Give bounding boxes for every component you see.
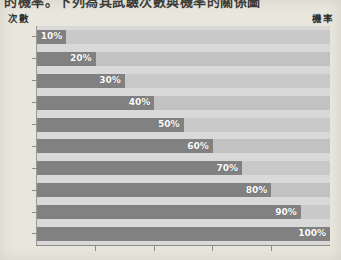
x-axis-line bbox=[36, 245, 330, 246]
bar-track: 10% bbox=[37, 30, 330, 44]
bar-fill: 60% bbox=[37, 139, 213, 153]
x-axis-tick bbox=[212, 245, 213, 251]
bar-value-label: 40% bbox=[129, 98, 155, 107]
bar-row: 20次20% bbox=[37, 48, 330, 70]
bar-row: 50次50% bbox=[37, 114, 330, 136]
bar-value-label: 90% bbox=[275, 208, 301, 217]
bar-chart: 的機率。下列為其試驗次數與機率的關係圖 次數 機率 10次10%20次20%30… bbox=[0, 0, 341, 260]
bar-track: 80% bbox=[37, 183, 330, 197]
bar-row: 10次10% bbox=[37, 26, 330, 48]
bar-track: 60% bbox=[37, 139, 330, 153]
bar-value-label: 30% bbox=[99, 76, 125, 85]
bar-value-label: 60% bbox=[187, 142, 213, 151]
bar-track: 20% bbox=[37, 52, 330, 66]
bar-fill: 80% bbox=[37, 183, 271, 197]
bar-track: 30% bbox=[37, 74, 330, 88]
bar-value-label: 80% bbox=[246, 186, 272, 195]
bar-track: 100% bbox=[37, 227, 330, 241]
bar-value-label: 10% bbox=[41, 32, 67, 41]
y-axis-title: 次數 bbox=[8, 11, 29, 25]
bar-fill: 50% bbox=[37, 118, 184, 132]
bar-track: 90% bbox=[37, 205, 330, 219]
bar-row: 60次60% bbox=[37, 135, 330, 157]
bar-row: 40次40% bbox=[37, 92, 330, 114]
bar-track: 40% bbox=[37, 96, 330, 110]
chart-title: 的機率。下列為其試驗次數與機率的關係圖 bbox=[4, 0, 261, 9]
x-axis-tick bbox=[95, 245, 96, 251]
bar-value-label: 50% bbox=[158, 120, 184, 129]
bar-value-label: 70% bbox=[217, 164, 243, 173]
x-axis-tick bbox=[271, 245, 272, 251]
bar-fill: 30% bbox=[37, 74, 125, 88]
bar-fill: 10% bbox=[37, 30, 66, 44]
bar-row: 80次80% bbox=[37, 179, 330, 201]
bar-fill: 70% bbox=[37, 161, 242, 175]
bar-fill: 100% bbox=[37, 227, 330, 241]
x-axis-tick bbox=[154, 245, 155, 251]
chart-title-strip: 的機率。下列為其試驗次數與機率的關係圖 bbox=[0, 0, 341, 9]
bar-row: 100次100% bbox=[37, 223, 330, 245]
x-axis-title: 機率 bbox=[312, 11, 333, 25]
bar-row: 70次70% bbox=[37, 157, 330, 179]
bar-row: 30次30% bbox=[37, 70, 330, 92]
bar-track: 50% bbox=[37, 118, 330, 132]
bar-fill: 40% bbox=[37, 96, 154, 110]
bar-value-label: 100% bbox=[298, 229, 330, 238]
bar-value-label: 20% bbox=[70, 54, 96, 63]
bar-fill: 20% bbox=[37, 52, 96, 66]
bar-fill: 90% bbox=[37, 205, 301, 219]
bar-row: 90次90% bbox=[37, 201, 330, 223]
bar-track: 70% bbox=[37, 161, 330, 175]
plot-area: 10次10%20次20%30次30%40次40%50次50%60次60%70次7… bbox=[36, 26, 330, 245]
